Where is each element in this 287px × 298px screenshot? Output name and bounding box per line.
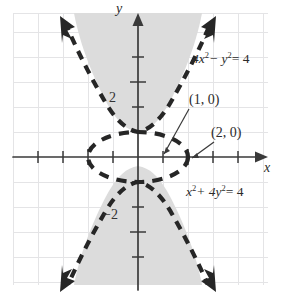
- point-1-0-label: (1, 0): [189, 93, 219, 107]
- arrowhead-lower-left: [60, 265, 75, 292]
- hyperbola-eq-rhs: = 4: [232, 51, 250, 66]
- y-axis-label: y: [116, 2, 122, 16]
- ellipse-eq-rhs: = 4: [226, 184, 244, 199]
- hyperbola-eq-a: 4x: [192, 51, 205, 66]
- y-tick-label-2: 2: [109, 91, 116, 105]
- arrowhead-upper-right: [201, 16, 216, 43]
- conic-graph-figure: 4x2− y2= 4 x2+ 4y2= 4 (1, 0) (2, 0) 2 −2…: [0, 0, 287, 298]
- hyperbola-equation-label: 4x2− y2= 4: [192, 52, 249, 66]
- hyperbola-eq-op: − y: [209, 51, 227, 66]
- x-axis-label: x: [264, 161, 270, 175]
- arrowhead-lower-right: [201, 265, 216, 292]
- y-tick-label-minus-2: −2: [103, 208, 118, 222]
- ellipse-eq-op: + 4y: [196, 184, 221, 199]
- ellipse-equation-label: x2+ 4y2= 4: [186, 185, 243, 199]
- point-2-0-label: (2, 0): [211, 126, 241, 140]
- callout-leaders: [164, 109, 214, 158]
- plot-canvas: [0, 0, 287, 298]
